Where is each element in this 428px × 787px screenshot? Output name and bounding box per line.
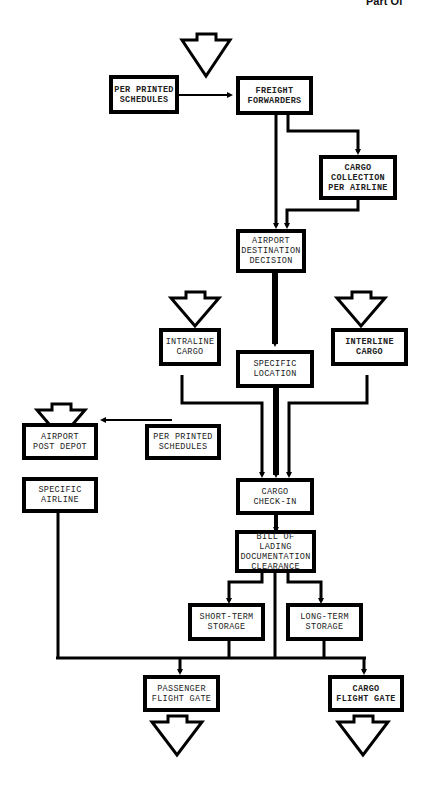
entry-arrow-icon: [182, 34, 230, 76]
flow-connectors: [0, 0, 428, 787]
node-airport-destination-decision: AIRPORT DESTINATION DECISION: [236, 229, 306, 273]
node-bill-of-lading: BILL OF LADING DOCUMENTATION CLEARANCE: [235, 530, 316, 573]
node-cargo-check-in: CARGO CHECK-IN: [236, 478, 314, 515]
node-airport-post-depot: AIRPORT POST DEPOT: [22, 423, 98, 460]
node-short-term-storage: SHORT-TERM STORAGE: [188, 603, 265, 641]
exit-arrow-icon: [338, 716, 388, 755]
node-per-printed-schedules-left: PER PRINTED SCHEDULES: [145, 424, 221, 460]
node-intraline-cargo: INTRALINE CARGO: [159, 328, 221, 366]
node-specific-airline: SPECIFIC AIRLINE: [22, 477, 98, 513]
entry-arrow-icon: [337, 292, 385, 326]
node-freight-forwarders: FREIGHT FORWARDERS: [236, 76, 313, 115]
entry-arrow-icon: [171, 292, 219, 326]
node-cargo-flight-gate: CARGO FLIGHT GATE: [328, 675, 404, 712]
node-long-term-storage: LONG-TERM STORAGE: [286, 603, 363, 641]
node-cargo-collection-per-airline: CARGO COLLECTION PER AIRLINE: [319, 155, 397, 200]
node-per-printed-schedules-top: PER PRINTED SCHEDULES: [109, 75, 179, 114]
node-specific-location: SPECIFIC LOCATION: [236, 350, 314, 388]
exit-arrow-icon: [152, 716, 202, 755]
node-passenger-flight-gate: PASSENGER FLIGHT GATE: [143, 675, 220, 712]
node-interline-cargo: INTERLINE CARGO: [331, 328, 408, 366]
